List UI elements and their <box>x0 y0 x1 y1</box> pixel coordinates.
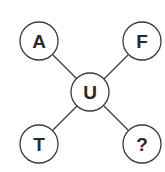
node-center: U <box>71 73 109 111</box>
question-mark: ? <box>136 134 148 155</box>
connector-bottom-right <box>104 106 128 130</box>
node-letter: U <box>83 82 97 103</box>
node-bottom-right: ? <box>123 125 161 163</box>
connector-top-left <box>53 55 77 79</box>
node-top-left: A <box>20 22 58 60</box>
connector-bottom-left <box>53 106 77 130</box>
connector-top-right <box>104 55 128 79</box>
letter-puzzle-diagram: A F U T ? <box>0 0 165 172</box>
node-top-right: F <box>123 22 161 60</box>
node-letter: A <box>32 31 46 52</box>
node-letter: T <box>33 134 45 155</box>
node-bottom-left: T <box>20 125 58 163</box>
node-letter: F <box>136 31 148 52</box>
